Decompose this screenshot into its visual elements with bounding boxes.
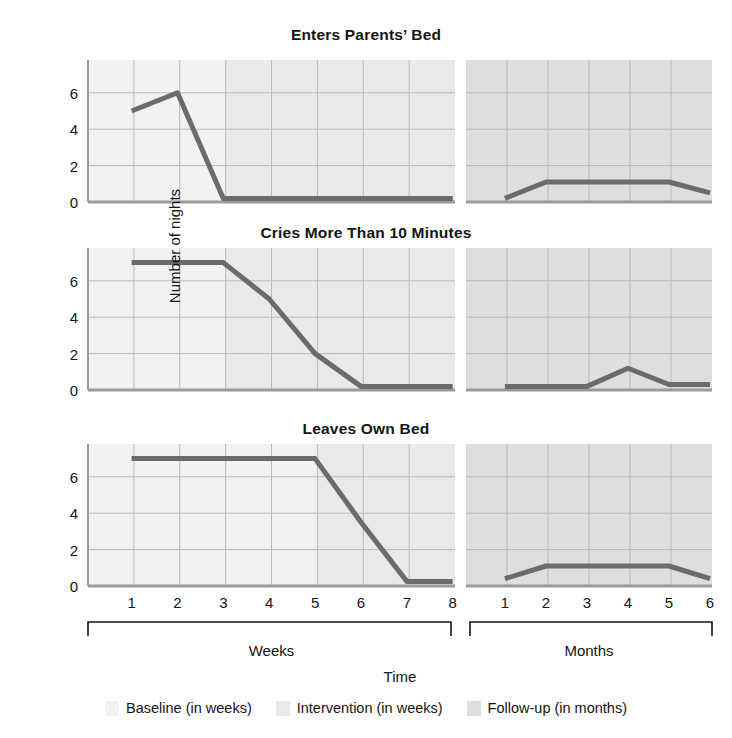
y-tick-label: 6 bbox=[56, 85, 78, 100]
y-tick-label: 4 bbox=[56, 506, 78, 521]
x-tick-month-6: 6 bbox=[699, 594, 721, 611]
legend-item-1: Baseline (in weeks) bbox=[105, 700, 252, 716]
y-tick-label: 4 bbox=[56, 310, 78, 325]
group-label-months: Months bbox=[564, 642, 613, 659]
x-tick-week-4: 4 bbox=[258, 594, 280, 611]
bracket bbox=[88, 622, 451, 636]
legend-label: Follow-up (in months) bbox=[488, 700, 627, 716]
x-tick-month-5: 5 bbox=[658, 594, 680, 611]
band-intervention bbox=[317, 444, 455, 586]
x-tick-month-2: 2 bbox=[535, 594, 557, 611]
x-tick-month-3: 3 bbox=[576, 594, 598, 611]
legend-swatch-icon bbox=[467, 701, 481, 716]
band-intervention bbox=[226, 60, 455, 202]
x-axis-title: Time bbox=[384, 668, 417, 685]
legend-swatch-icon bbox=[105, 701, 119, 716]
y-tick-label: 2 bbox=[56, 346, 78, 361]
bracket-path bbox=[88, 622, 451, 636]
bracket bbox=[470, 622, 712, 636]
x-tick-week-2: 2 bbox=[166, 594, 188, 611]
y-tick-label: 4 bbox=[56, 122, 78, 137]
x-tick-week-7: 7 bbox=[396, 594, 418, 611]
legend-item-3: Follow-up (in months) bbox=[467, 700, 627, 716]
y-tick-label: 2 bbox=[56, 542, 78, 557]
y-tick-label: 6 bbox=[56, 273, 78, 288]
y-tick-label: 2 bbox=[56, 158, 78, 173]
figure-root: Enters Parents’ Bed0246Cries More Than 1… bbox=[0, 0, 732, 738]
band-baseline bbox=[88, 248, 226, 390]
legend-swatch-icon bbox=[276, 701, 290, 716]
y-tick-label: 0 bbox=[56, 579, 78, 594]
phase-brackets bbox=[0, 620, 732, 646]
band-baseline bbox=[88, 444, 317, 586]
panel-title-3: Leaves Own Bed bbox=[0, 420, 732, 438]
y-tick-label: 0 bbox=[56, 383, 78, 398]
x-tick-month-1: 1 bbox=[494, 594, 516, 611]
y-tick-label: 6 bbox=[56, 469, 78, 484]
group-label-weeks: Weeks bbox=[249, 642, 295, 659]
legend-item-2: Intervention (in weeks) bbox=[276, 700, 443, 716]
panel-title-1: Enters Parents’ Bed bbox=[0, 26, 732, 44]
plot-area-3 bbox=[0, 444, 732, 588]
x-tick-week-8: 8 bbox=[442, 594, 464, 611]
x-tick-month-4: 4 bbox=[617, 594, 639, 611]
legend: Baseline (in weeks)Intervention (in week… bbox=[0, 700, 732, 716]
plot-area-1 bbox=[0, 60, 732, 204]
legend-label: Intervention (in weeks) bbox=[297, 700, 443, 716]
x-tick-week-6: 6 bbox=[350, 594, 372, 611]
legend-label: Baseline (in weeks) bbox=[126, 700, 252, 716]
x-tick-week-1: 1 bbox=[121, 594, 143, 611]
bracket-path bbox=[470, 622, 712, 636]
plot-area-2 bbox=[0, 248, 732, 392]
y-axis-title: Number of nights bbox=[166, 189, 183, 303]
x-tick-week-3: 3 bbox=[212, 594, 234, 611]
y-tick-label: 0 bbox=[56, 195, 78, 210]
panel-title-2: Cries More Than 10 Minutes bbox=[0, 224, 732, 242]
x-tick-week-5: 5 bbox=[304, 594, 326, 611]
y-axis-title-wrap: Number of nights bbox=[160, 66, 188, 426]
band-baseline bbox=[88, 60, 226, 202]
